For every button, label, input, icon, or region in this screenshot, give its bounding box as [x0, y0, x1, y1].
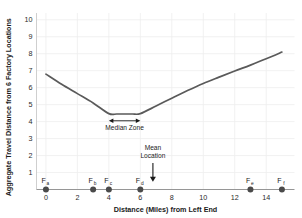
factory-marker-dot	[106, 187, 112, 193]
median-zone-annotation: Median Zone	[105, 118, 144, 131]
x-tick-label: 0	[44, 193, 48, 202]
y-axis-title: Aggregate Travel Distance from 6 Factory…	[4, 18, 13, 196]
mean-location-label-line1: Mean	[145, 144, 162, 151]
y-tick-label: 6	[29, 83, 33, 92]
mean-location-label-line2: Location	[140, 152, 165, 159]
y-tick-label: 5	[29, 100, 33, 109]
x-tick-label: 2	[75, 193, 79, 202]
y-tick-label: 1	[29, 168, 33, 177]
chart-container: 12345678910 02468101214 FaFbFcFdFeFf Med…	[0, 0, 302, 218]
median-zone-label: Median Zone	[105, 124, 144, 131]
factory-label-subscript: e	[251, 181, 254, 186]
x-tick-label: 12	[231, 193, 239, 202]
factory-marker-dot	[279, 187, 285, 193]
factory-label-subscript: a	[47, 181, 50, 186]
factory-label-base: F	[277, 177, 281, 184]
y-tick-label: 4	[29, 117, 33, 126]
factory-label-base: F	[89, 177, 93, 184]
factory-label-base: F	[136, 177, 140, 184]
y-tick-label: 7	[29, 66, 33, 75]
y-tick-label: 9	[29, 32, 33, 41]
x-tick-label: 14	[262, 193, 270, 202]
factory-label-subscript: b	[94, 181, 97, 186]
factory-label-subscript: d	[141, 181, 144, 186]
factory-label-base: F	[41, 177, 45, 184]
x-tick-label: 10	[199, 193, 207, 202]
y-tick-label: 8	[29, 49, 33, 58]
factory-label-base: F	[104, 177, 108, 184]
x-axis-title: Distance (Miles) from Left End	[114, 205, 217, 214]
y-tick-label: 3	[29, 134, 33, 143]
x-tick-label: 6	[138, 193, 142, 202]
factory-marker-dot	[90, 187, 96, 193]
aggregate-travel-distance-chart: 12345678910 02468101214 FaFbFcFdFeFf Med…	[0, 0, 302, 218]
factory-marker-dot	[43, 187, 49, 193]
x-tick-label: 4	[107, 193, 111, 202]
y-tick-label: 10	[25, 15, 33, 24]
factory-marker-dot	[137, 187, 143, 193]
x-tick-label: 8	[170, 193, 174, 202]
factory-marker-dot	[247, 187, 253, 193]
factory-label-base: F	[246, 177, 250, 184]
y-tick-label: 2	[29, 151, 33, 160]
